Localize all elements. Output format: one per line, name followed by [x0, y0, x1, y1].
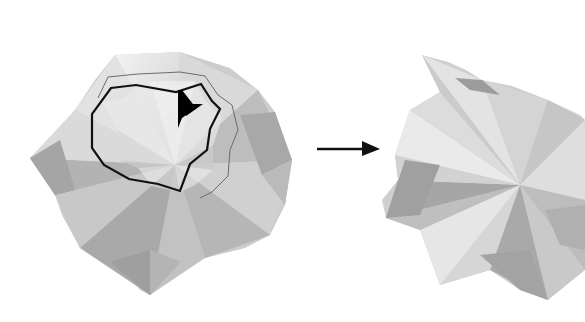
- arrow-right-icon: [317, 141, 380, 156]
- origami-diagram: [0, 0, 585, 322]
- model-after: [382, 55, 585, 300]
- model-before: [30, 52, 292, 295]
